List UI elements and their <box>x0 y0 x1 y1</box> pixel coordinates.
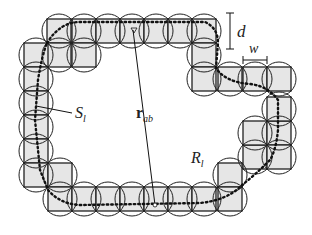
label-r: rab <box>136 104 153 124</box>
grid-square <box>48 163 72 187</box>
grid-square <box>218 163 242 187</box>
cell-chain-diagram: d w Sl rab Rl <box>0 0 312 235</box>
label-s: Sl <box>75 104 86 124</box>
grid-square <box>72 187 96 211</box>
grid-square <box>218 187 242 211</box>
r-ab-end-marker <box>153 203 157 207</box>
grid-square <box>267 67 291 91</box>
grid-square <box>144 187 168 211</box>
grid-square <box>120 187 144 211</box>
grid-square <box>192 187 216 211</box>
d-dimension-marker <box>226 13 234 49</box>
grid-square <box>243 145 267 169</box>
grid-square <box>243 121 267 145</box>
grid-square <box>168 187 192 211</box>
label-w: w <box>249 41 259 56</box>
w-dimension-marker <box>243 56 267 64</box>
grid-square <box>192 43 216 67</box>
grid-square <box>24 67 48 91</box>
grid-square <box>267 121 291 145</box>
grid-square <box>24 139 48 163</box>
grid-square <box>96 187 120 211</box>
label-r-l: Rl <box>190 149 204 169</box>
label-d: d <box>237 22 246 41</box>
grid-square <box>192 67 216 91</box>
